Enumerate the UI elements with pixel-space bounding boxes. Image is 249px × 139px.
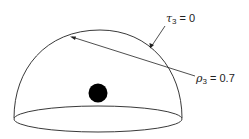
rho-pointer-line: [72, 37, 195, 76]
tau-label: τ3 = 0: [166, 13, 195, 26]
hemisphere-base: [14, 106, 182, 132]
rho-subscript: 3: [202, 77, 206, 86]
tau-pointer-line: [151, 26, 165, 47]
tau-subscript: 3: [172, 17, 176, 26]
hemisphere-dome: [14, 30, 182, 118]
tau-value: = 0: [180, 12, 196, 24]
rho-value: = 0.7: [210, 72, 235, 84]
hemisphere-diagram: [0, 0, 249, 139]
rho-label: ρ3 = 0.7: [196, 73, 235, 86]
rho-arrowhead: [70, 37, 76, 41]
center-dot: [89, 84, 108, 103]
